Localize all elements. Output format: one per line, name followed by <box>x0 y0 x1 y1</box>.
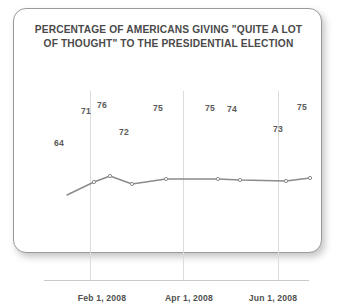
data-point-label: 73 <box>273 124 283 134</box>
data-point-label: 75 <box>205 103 215 113</box>
data-point-label: 76 <box>97 100 107 110</box>
gridline-1 <box>90 91 91 280</box>
series-line <box>67 176 310 195</box>
data-point-marker <box>308 176 311 179</box>
gridline-2 <box>183 91 184 280</box>
x-axis-tick-label-1: Feb 1, 2008 <box>78 293 127 303</box>
data-point-marker <box>284 179 287 182</box>
data-point-marker <box>216 177 219 180</box>
chart-title: PERCENTAGE OF AMERICANS GIVING "QUITE A … <box>28 23 309 52</box>
data-point-marker <box>92 180 95 183</box>
data-point-label: 75 <box>153 103 163 113</box>
chart-title-line-1: PERCENTAGE OF AMERICANS GIVING "QUITE A … <box>28 23 309 37</box>
data-point-marker <box>130 182 133 185</box>
line-series <box>22 71 337 307</box>
data-point-marker <box>164 177 167 180</box>
data-point-marker <box>108 174 111 177</box>
x-axis-tick-label-2: Apr 1, 2008 <box>165 293 213 303</box>
x-axis-line <box>44 280 309 281</box>
plot-area: 647176727575747375 Feb 1, 2008Apr 1, 200… <box>22 71 315 226</box>
data-point-label: 72 <box>119 127 129 137</box>
x-axis-tick-label-3: Jun 1, 2008 <box>249 293 298 303</box>
data-point-label: 74 <box>227 104 237 114</box>
data-point-marker <box>238 178 241 181</box>
chart-card: PERCENTAGE OF AMERICANS GIVING "QUITE A … <box>13 8 322 253</box>
chart-title-line-2: OF THOUGHT" TO THE PRESIDENTIAL ELECTION <box>28 37 309 51</box>
data-point-label: 64 <box>54 138 64 148</box>
data-point-label: 75 <box>297 102 307 112</box>
gridline-3 <box>278 91 279 280</box>
data-point-label: 71 <box>81 106 91 116</box>
